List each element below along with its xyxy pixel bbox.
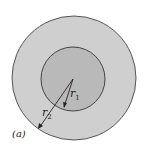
figure-label: (a) xyxy=(12,128,26,139)
concentric-circles-diagram: r1 r2 (a) xyxy=(0,0,148,154)
